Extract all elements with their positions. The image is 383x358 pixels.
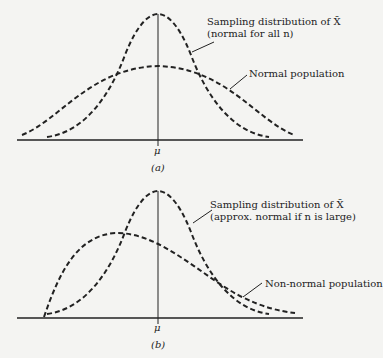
- leader-population-b: [243, 283, 262, 297]
- leader-sampling-a: [192, 42, 214, 52]
- mu-label-a: μ: [154, 145, 161, 157]
- population-label-b: Non-normal population: [265, 278, 383, 290]
- caption-a: (a): [151, 162, 165, 174]
- mu-label-b: μ: [154, 322, 161, 334]
- sampling-label-a-line2: (normal for all n): [207, 28, 294, 40]
- caption-b: (b): [151, 339, 165, 351]
- sampling-label-a-line1: Sampling distribution of X̄: [207, 16, 341, 28]
- population-curve-b: [44, 233, 295, 317]
- population-label-a: Normal population: [249, 68, 344, 80]
- leader-population-a: [230, 75, 247, 89]
- sampling-label-b-line1: Sampling distribution of X̄: [210, 199, 344, 211]
- sampling-label-b-line2: (approx. normal if n is large): [210, 211, 356, 223]
